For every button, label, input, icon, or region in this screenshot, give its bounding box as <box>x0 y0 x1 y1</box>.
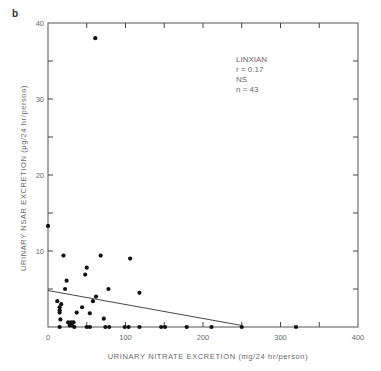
data-point <box>63 287 67 291</box>
data-point <box>72 325 76 329</box>
x-tick-label: 400 <box>352 333 365 342</box>
data-point <box>209 325 213 329</box>
data-point <box>128 257 132 261</box>
x-axis-label: URINARY NITRATE EXCRETION (mg/24 hr/pers… <box>108 352 308 361</box>
data-point <box>185 325 189 329</box>
scatter-chart: b 010020030040010203040 LINXIAN r = 0.17… <box>0 0 381 371</box>
data-point <box>65 279 69 283</box>
data-point <box>106 287 110 291</box>
data-point <box>99 253 103 257</box>
y-tick-label: 40 <box>36 19 44 28</box>
data-point <box>80 305 84 309</box>
annotation-box: LINXIAN r = 0.17 NS n = 43 <box>236 55 267 94</box>
data-point <box>137 325 141 329</box>
annotation-line-3: NS <box>236 75 247 84</box>
x-tick-label: 300 <box>274 333 287 342</box>
data-point <box>75 310 79 314</box>
y-tick-label: 10 <box>36 247 44 256</box>
annotation-line-4: n = 43 <box>236 85 259 94</box>
data-point <box>159 325 163 329</box>
data-point <box>61 253 65 257</box>
data-point <box>58 317 62 321</box>
data-point <box>107 325 111 329</box>
axis-ticks <box>48 23 358 327</box>
tick-labels: 010020030040010203040 <box>36 19 365 342</box>
data-point <box>91 299 95 303</box>
data-point <box>88 325 92 329</box>
data-point <box>102 317 106 321</box>
plot-frame <box>48 23 358 327</box>
data-point <box>123 325 127 329</box>
data-point <box>58 325 62 329</box>
data-points <box>46 36 298 329</box>
data-point <box>55 299 59 303</box>
data-point <box>127 325 131 329</box>
data-point <box>85 266 89 270</box>
x-tick-label: 200 <box>197 333 210 342</box>
data-point <box>93 36 97 40</box>
data-point <box>94 295 98 299</box>
data-point <box>294 325 298 329</box>
y-tick-label: 30 <box>36 95 44 104</box>
annotation-line-1: LINXIAN <box>236 55 267 64</box>
data-point <box>83 272 87 276</box>
annotation-line-2: r = 0.17 <box>236 65 264 74</box>
y-axis-label: URINARY NSAR EXCRETION (µg/24 hr/person) <box>19 85 28 271</box>
data-point <box>137 291 141 295</box>
data-point <box>58 310 62 314</box>
data-point <box>88 311 92 315</box>
x-tick-label: 0 <box>46 333 50 342</box>
data-point <box>46 224 50 228</box>
regression-line <box>48 291 242 326</box>
data-point <box>103 325 107 329</box>
panel-label: b <box>12 8 18 19</box>
y-tick-label: 20 <box>36 171 44 180</box>
data-point <box>163 325 167 329</box>
x-tick-label: 100 <box>119 333 132 342</box>
